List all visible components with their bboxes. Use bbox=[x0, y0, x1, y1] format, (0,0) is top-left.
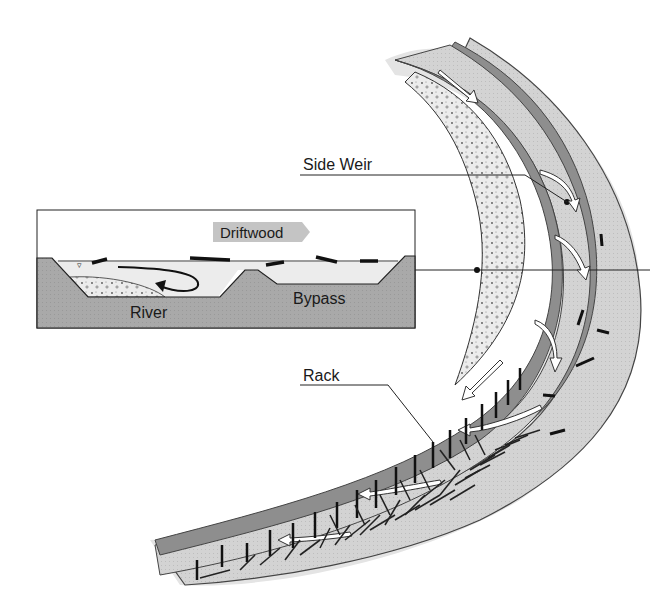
bypass-label: Bypass bbox=[293, 290, 345, 307]
water-level-symbol: ▿ bbox=[77, 260, 82, 270]
rack-leader bbox=[300, 385, 433, 442]
side-weir-leader bbox=[300, 175, 567, 202]
side-weir-label: Side Weir bbox=[303, 156, 373, 173]
river-label: River bbox=[130, 304, 168, 321]
diagram-svg: Side Weir Rack ▿ Driftwood River Bypass bbox=[0, 0, 670, 602]
driftwood-label: Driftwood bbox=[220, 224, 283, 241]
cross-section-inset: ▿ Driftwood River Bypass bbox=[37, 210, 415, 328]
rack-label: Rack bbox=[303, 367, 340, 384]
section-marker bbox=[474, 267, 480, 273]
diagram-canvas: Side Weir Rack ▿ Driftwood River Bypass bbox=[0, 0, 670, 602]
